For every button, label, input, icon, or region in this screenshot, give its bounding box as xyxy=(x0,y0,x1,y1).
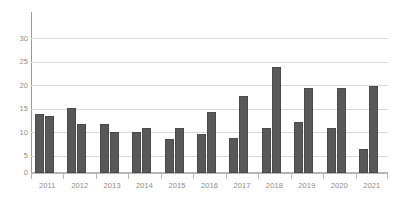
x-axis-tick-mark xyxy=(387,174,388,179)
bar xyxy=(337,88,346,173)
plot-area xyxy=(31,12,388,173)
bar xyxy=(132,132,141,173)
bar xyxy=(294,122,303,173)
bar xyxy=(327,128,336,173)
bar xyxy=(369,86,378,173)
bar-group-container xyxy=(31,12,388,173)
x-axis-tick-mark xyxy=(31,174,32,179)
bar xyxy=(100,124,109,173)
bar xyxy=(77,124,86,173)
x-axis-tick-label: 2012 xyxy=(65,182,95,190)
bar xyxy=(110,132,119,173)
x-axis-tick-label: 2014 xyxy=(130,182,160,190)
bar xyxy=(304,88,313,173)
y-axis-tick-label: 25 xyxy=(4,58,28,66)
x-axis-tick-mark xyxy=(258,174,259,179)
x-axis-tick-mark xyxy=(356,174,357,179)
x-axis-tick-label: 2020 xyxy=(324,182,354,190)
x-axis-tick-label: 2019 xyxy=(292,182,322,190)
x-axis-tick-mark xyxy=(128,174,129,179)
bar xyxy=(262,128,271,173)
y-axis-tick-label: 15 xyxy=(4,105,28,113)
bar xyxy=(175,128,184,173)
x-axis-tick-label: 2017 xyxy=(227,182,257,190)
bar xyxy=(229,138,238,173)
y-axis-tick-label: 5 xyxy=(4,152,28,160)
x-axis-tick-label: 2018 xyxy=(259,182,289,190)
y-axis-tick-label: 20 xyxy=(4,82,28,90)
bar xyxy=(142,128,151,173)
x-axis-tick-mark xyxy=(323,174,324,179)
bar-chart: 30 25 20 15 10 5 0 201120122013201420152… xyxy=(0,0,396,204)
x-axis-tick-mark xyxy=(291,174,292,179)
x-axis-tick-label: 2013 xyxy=(97,182,127,190)
x-axis-tick-label: 2021 xyxy=(357,182,387,190)
bar xyxy=(197,134,206,173)
x-axis-tick-mark xyxy=(63,174,64,179)
y-axis-tick-label: 30 xyxy=(4,35,28,43)
x-axis: 2011201220132014201520162017201820192020… xyxy=(31,173,388,204)
x-axis-line xyxy=(31,173,388,174)
x-axis-tick-label: 2011 xyxy=(32,182,62,190)
y-axis-tick-label: 10 xyxy=(4,129,28,137)
y-axis-tick-label: 0 xyxy=(4,169,28,177)
x-axis-tick-mark xyxy=(193,174,194,179)
x-axis-tick-mark xyxy=(96,174,97,179)
x-axis-tick-label: 2015 xyxy=(162,182,192,190)
bar xyxy=(207,112,216,173)
bar xyxy=(359,149,368,173)
bar xyxy=(45,116,54,173)
bar xyxy=(67,108,76,173)
x-axis-tick-label: 2016 xyxy=(195,182,225,190)
x-axis-tick-mark xyxy=(226,174,227,179)
bar xyxy=(239,96,248,173)
bar xyxy=(272,67,281,173)
bar xyxy=(35,114,44,173)
x-axis-tick-mark xyxy=(161,174,162,179)
bar xyxy=(165,139,174,173)
